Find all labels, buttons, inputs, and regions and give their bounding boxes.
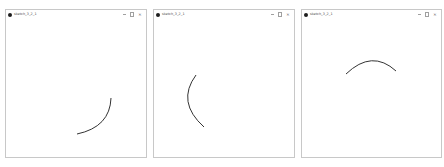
minimize-icon [123,14,126,15]
sketch-window-1[interactable]: sketch_3_2_1 ✕ [5,9,147,158]
arc-drawing [302,19,441,157]
desktop: sketch_3_2_1 ✕ sketch_3_2_1 ✕ [0,0,444,167]
sketch-canvas[interactable] [154,19,294,157]
sketch-canvas[interactable] [302,19,441,157]
window-title: sketch_3_2_1 [162,10,268,19]
title-bar[interactable]: sketch_3_2_1 ✕ [302,10,441,19]
window-controls: ✕ [268,10,292,19]
window-title: sketch_3_2_1 [310,10,415,19]
window-title: sketch_3_2_1 [14,10,120,19]
maximize-button[interactable] [423,10,431,19]
title-bar[interactable]: sketch_3_2_1 ✕ [6,10,146,19]
processing-app-icon [304,13,308,17]
window-controls: ✕ [120,10,144,19]
minimize-icon [418,14,421,15]
minimize-button[interactable] [120,10,128,19]
sketch-canvas[interactable] [6,19,146,157]
processing-app-icon [156,13,160,17]
maximize-icon [278,12,283,17]
sketch-window-3[interactable]: sketch_3_2_1 ✕ [301,9,442,158]
close-button[interactable]: ✕ [136,10,144,19]
maximize-icon [130,12,135,17]
maximize-button[interactable] [276,10,284,19]
arc-drawing [6,19,146,157]
maximize-icon [425,12,430,17]
processing-app-icon [8,13,12,17]
minimize-button[interactable] [415,10,423,19]
close-button[interactable]: ✕ [284,10,292,19]
minimize-button[interactable] [268,10,276,19]
maximize-button[interactable] [128,10,136,19]
window-controls: ✕ [415,10,439,19]
arc-stroke [346,61,396,74]
arc-stroke [77,98,111,134]
close-button[interactable]: ✕ [431,10,439,19]
arc-drawing [154,19,294,157]
sketch-window-2[interactable]: sketch_3_2_1 ✕ [153,9,295,158]
arc-stroke [188,75,204,127]
minimize-icon [271,14,274,15]
title-bar[interactable]: sketch_3_2_1 ✕ [154,10,294,19]
